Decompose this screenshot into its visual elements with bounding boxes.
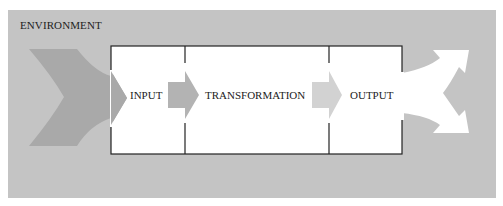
- stage-label-output: OUTPUT: [350, 89, 393, 101]
- stage-label-transformation: TRANSFORMATION: [205, 89, 305, 101]
- outflow-forked-arrow-icon: [402, 50, 469, 133]
- stage-label-input: INPUT: [130, 89, 162, 101]
- system-diagram: [0, 0, 503, 206]
